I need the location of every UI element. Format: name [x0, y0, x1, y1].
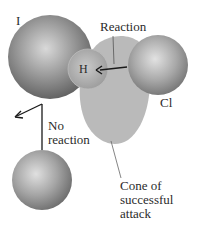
cone-label-line3: attack — [120, 207, 173, 221]
reaction-cone-diagram: I Reaction H Cl No reaction Cone of succ… — [0, 0, 207, 228]
no-reaction-label-line2: reaction — [48, 133, 90, 147]
iodine-label: I — [16, 14, 20, 28]
cone-of-attack-label: Cone of successful attack — [120, 179, 173, 221]
no-reaction-arrow-icon — [15, 104, 42, 150]
cone-label-line1: Cone of — [120, 179, 173, 193]
no-reaction-label-line1: No — [48, 119, 90, 133]
cone-label-line2: successful — [120, 193, 173, 207]
cone-leader-line — [111, 141, 121, 178]
non-reacting-atom-sphere — [12, 150, 72, 210]
reaction-label: Reaction — [100, 20, 146, 34]
chlorine-label: Cl — [160, 96, 172, 110]
diagram-graphics — [0, 0, 207, 228]
chlorine-atom-sphere — [128, 35, 188, 95]
no-reaction-label: No reaction — [48, 119, 90, 147]
hydrogen-atom-sphere — [68, 49, 108, 89]
hydrogen-label: H — [79, 62, 88, 76]
